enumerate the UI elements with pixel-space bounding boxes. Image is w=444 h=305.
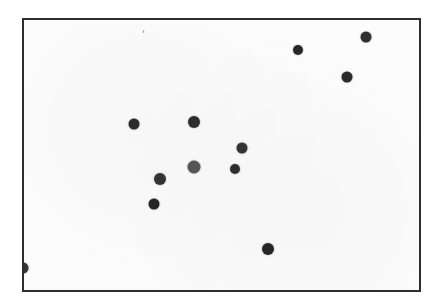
speck: [143, 30, 145, 33]
dot: [129, 119, 140, 130]
dot: [293, 45, 303, 55]
dot: [237, 143, 248, 154]
dot: [154, 173, 166, 185]
dot: [188, 116, 200, 128]
dot: [149, 199, 160, 210]
canvas: [0, 0, 444, 305]
dot: [230, 164, 240, 174]
dot: [24, 263, 29, 274]
dot: [188, 161, 201, 174]
dot: [262, 243, 274, 255]
dot: [361, 32, 372, 43]
dot-clip-region: [24, 20, 419, 290]
dot: [342, 72, 353, 83]
